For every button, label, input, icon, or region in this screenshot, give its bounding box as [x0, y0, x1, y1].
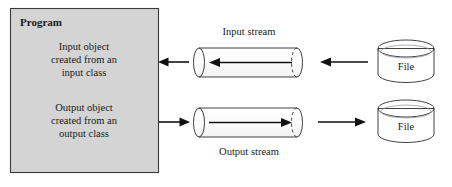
- program-box-rect: [11, 9, 159, 173]
- output-object-line-3: output class: [59, 128, 109, 139]
- program-box: Program: [11, 9, 159, 173]
- input-object-line-2: created from an: [51, 54, 118, 65]
- arrow-file-to-input-stream: [320, 57, 368, 66]
- arrow-output-stream-to-file: [318, 117, 366, 126]
- output-object-line-2: created from an: [51, 115, 118, 126]
- output-stream-pipe: Output stream: [194, 108, 303, 157]
- input-object-line-1: Input object: [59, 41, 110, 52]
- arrow-input-stream-to-program: [158, 58, 189, 67]
- file-top-inner-rim: [381, 45, 431, 58]
- arrow-head-right-lower: [180, 118, 191, 127]
- file-top-label: File: [398, 61, 415, 72]
- input-stream-pipe: Input stream: [194, 26, 303, 77]
- file-cylinder-bottom: File: [378, 100, 434, 143]
- io-stream-diagram: Program Input object created from an inp…: [0, 0, 452, 187]
- file-cylinder-top: File: [378, 40, 434, 83]
- diagram-canvas: Program Input object created from an inp…: [0, 0, 452, 187]
- arrow-head-left-upper: [158, 58, 169, 67]
- arrow-head-file-to-input: [320, 57, 331, 66]
- arrow-head-output-to-file: [355, 117, 366, 126]
- output-object-text: Output object created from an output cla…: [51, 102, 118, 139]
- program-box-title: Program: [20, 16, 62, 28]
- input-stream-label: Input stream: [223, 26, 276, 37]
- input-object-line-3: input class: [62, 67, 107, 78]
- output-stream-label: Output stream: [219, 146, 279, 157]
- output-object-line-1: Output object: [55, 102, 113, 113]
- arrow-program-to-output-stream: [159, 118, 190, 127]
- file-bottom-inner-rim: [381, 105, 431, 118]
- file-bottom-label: File: [398, 121, 415, 132]
